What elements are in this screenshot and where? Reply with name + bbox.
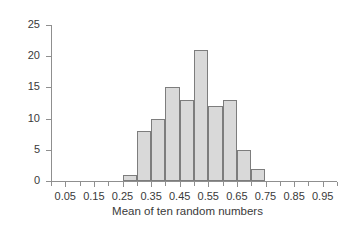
histogram-bar: [180, 100, 194, 181]
x-axis-tick: [123, 182, 124, 187]
histogram-bar: [151, 119, 165, 181]
histogram-bar: [165, 87, 179, 181]
x-axis-minor-tick: [337, 182, 338, 186]
x-axis-minor-tick: [137, 182, 138, 186]
histogram-bar: [137, 131, 151, 181]
x-axis-tick: [266, 182, 267, 187]
x-axis-tick: [65, 182, 66, 187]
x-axis-minor-tick: [165, 182, 166, 186]
histogram-bar: [194, 50, 208, 181]
histogram-bars: [0, 0, 348, 182]
histogram-bar: [123, 175, 137, 181]
x-axis-tick: [208, 182, 209, 187]
caption-partial: [6, 228, 216, 233]
x-axis-tick: [94, 182, 95, 187]
x-axis-minor-tick: [80, 182, 81, 186]
x-axis-tick: [237, 182, 238, 187]
x-axis-tick: [151, 182, 152, 187]
histogram-bar: [223, 100, 237, 181]
x-axis-tick-label: 0.95: [303, 190, 343, 202]
histogram-bar: [251, 169, 265, 181]
x-axis-tick: [180, 182, 181, 187]
x-axis-tick: [323, 182, 324, 187]
histogram-bar: [208, 106, 222, 181]
x-axis-minor-tick: [308, 182, 309, 186]
x-axis-minor-tick: [194, 182, 195, 186]
x-axis-minor-tick: [223, 182, 224, 186]
histogram-bar: [237, 150, 251, 181]
x-axis-minor-tick: [108, 182, 109, 186]
x-axis-minor-tick: [280, 182, 281, 186]
x-axis-minor-tick: [251, 182, 252, 186]
histogram-figure: Frequency 0510152025 0.050.150.250.350.4…: [0, 0, 348, 233]
x-axis-title: Mean of ten random numbers: [35, 205, 340, 218]
x-axis-tick: [294, 182, 295, 187]
x-axis-minor-tick: [51, 182, 52, 186]
